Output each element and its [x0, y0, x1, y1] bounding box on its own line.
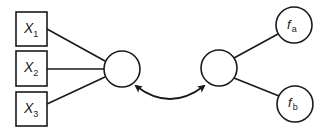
right-hidden-node — [201, 50, 237, 86]
network-diagram: X1 X2 X3 fa fb — [0, 0, 331, 135]
bidirectional-arrow — [136, 86, 204, 99]
input-box-x2: X2 — [16, 51, 47, 86]
output-node-fb: fb — [277, 86, 313, 122]
input-box-x3: X3 — [16, 92, 47, 126]
output-node-fa: fa — [276, 7, 312, 43]
edge-x1-node — [47, 29, 105, 61]
edge-x3-node — [47, 77, 105, 104]
edge-node-fa — [234, 34, 278, 58]
edge-node-fb — [234, 78, 279, 96]
left-hidden-node — [104, 51, 140, 87]
input-box-x1: X1 — [16, 12, 47, 46]
